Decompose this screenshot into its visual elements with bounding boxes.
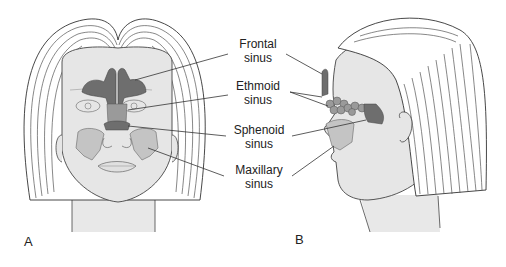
sphenoid-sinus-a xyxy=(104,121,130,130)
panel-a-frontal-head xyxy=(24,19,205,232)
panel-letter-b: B xyxy=(295,232,304,247)
panel-b-lateral-head xyxy=(322,18,486,232)
sinus-diagram: Frontal sinus Ethmoid sinus Sphenoid sin… xyxy=(0,0,506,267)
frontal-sinus-label: Frontal sinus xyxy=(229,38,287,64)
panel-letter-a: A xyxy=(24,234,33,249)
ethmoid-sinus-label: Ethmoid sinus xyxy=(229,80,287,106)
frontal-sinus-b xyxy=(322,69,328,96)
maxillary-sinus-label: Maxillary sinus xyxy=(226,164,292,190)
sphenoid-sinus-label: Sphenoid sinus xyxy=(227,124,291,150)
